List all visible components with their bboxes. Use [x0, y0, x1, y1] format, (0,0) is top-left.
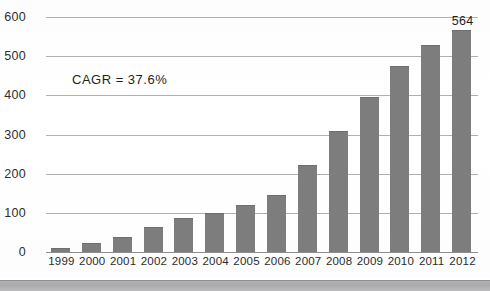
bar-rect	[421, 45, 440, 252]
bar-2011[interactable]	[416, 17, 447, 252]
bar-rect	[113, 237, 132, 252]
y-tick-label: 400	[0, 88, 26, 102]
x-tick-label-2003: 2003	[169, 255, 200, 267]
bar-rect	[174, 218, 193, 252]
x-tick-label-2006: 2006	[262, 255, 293, 267]
x-tick-label-2007: 2007	[293, 255, 324, 267]
bar-2001[interactable]	[108, 17, 139, 252]
x-tick-label-2012: 2012	[447, 255, 478, 267]
bar-1999[interactable]	[46, 17, 77, 252]
x-tick-label-2000: 2000	[77, 255, 108, 267]
bar-rect	[51, 248, 70, 252]
bar-2008[interactable]	[324, 17, 355, 252]
bar-rect	[360, 97, 379, 252]
bar-2012[interactable]: 564	[447, 17, 478, 252]
bar-2007[interactable]	[293, 17, 324, 252]
y-tick-label: 500	[0, 49, 26, 63]
bar-series: 564	[46, 17, 478, 252]
x-tick-label-2004: 2004	[200, 255, 231, 267]
x-tick-label-2009: 2009	[355, 255, 386, 267]
y-tick-label: 300	[0, 128, 26, 142]
bar-2009[interactable]	[355, 17, 386, 252]
x-tick-label-2010: 2010	[385, 255, 416, 267]
bar-rect	[205, 213, 224, 252]
bar-rect	[267, 195, 286, 252]
x-axis-labels: 1999200020012002200320042005200620072008…	[46, 255, 478, 275]
bar-2004[interactable]	[200, 17, 231, 252]
bar-rect	[298, 165, 317, 252]
x-tick-label-1999: 1999	[46, 255, 77, 267]
bar-2000[interactable]	[77, 17, 108, 252]
x-tick-label-2002: 2002	[139, 255, 170, 267]
bar-rect	[82, 243, 101, 252]
x-tick-label-2011: 2011	[416, 255, 447, 267]
gridline-0	[46, 252, 478, 253]
y-tick-label: 100	[0, 206, 26, 220]
bar-2010[interactable]	[385, 17, 416, 252]
page-edge-band	[0, 278, 490, 291]
cagr-annotation: CAGR = 37.6%	[72, 72, 167, 87]
bar-value-label: 564	[447, 14, 478, 28]
y-tick-label: 0	[0, 245, 26, 259]
bar-chart: 0100200300400500600 564 1999200020012002…	[0, 0, 490, 291]
bar-rect	[329, 131, 348, 252]
x-tick-label-2001: 2001	[108, 255, 139, 267]
y-tick-label: 200	[0, 167, 26, 181]
bar-2005[interactable]	[231, 17, 262, 252]
bar-rect	[390, 66, 409, 252]
x-tick-label-2008: 2008	[324, 255, 355, 267]
bar-2002[interactable]	[139, 17, 170, 252]
bar-2006[interactable]	[262, 17, 293, 252]
bar-2003[interactable]	[169, 17, 200, 252]
y-tick-label: 600	[0, 10, 26, 24]
bar-rect	[452, 30, 471, 252]
bar-rect	[144, 227, 163, 252]
x-tick-label-2005: 2005	[231, 255, 262, 267]
bar-rect	[236, 205, 255, 252]
